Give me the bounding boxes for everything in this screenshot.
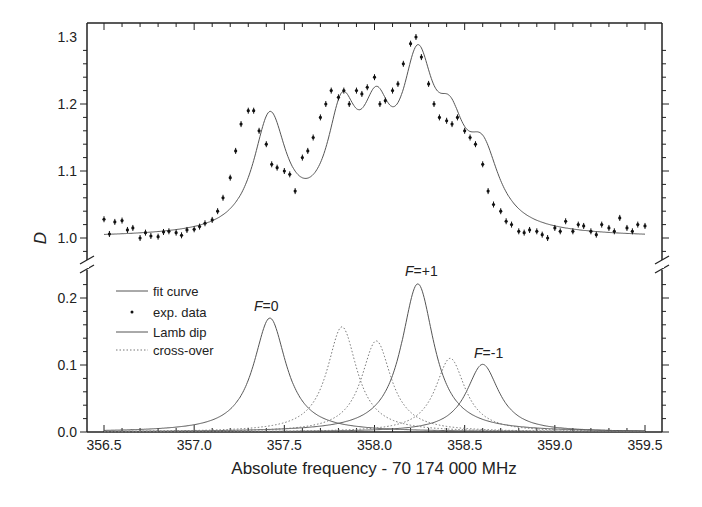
x-axis-title: Absolute frequency - 70 174 000 MHz — [231, 459, 516, 478]
exp-data-point — [337, 96, 340, 99]
exp-data-point — [126, 228, 129, 231]
annotation-F0-suffix: =0 — [263, 298, 279, 314]
exp-data-point — [270, 163, 273, 166]
exp-data-point — [120, 219, 123, 222]
y-tick-label: 0.2 — [58, 290, 78, 306]
exp-data-point — [180, 234, 183, 237]
x-tick-label: 359.0 — [537, 437, 572, 453]
exp-data-point — [234, 149, 237, 152]
cross-over-curve — [104, 358, 645, 432]
exp-data-point — [221, 196, 224, 199]
legend-exp-label: exp. data — [153, 305, 207, 320]
exp-data-point — [595, 233, 598, 236]
exp-data-point — [185, 228, 188, 231]
exp-data-point — [636, 223, 639, 226]
chart-figure: 356.5357.0357.5358.0358.5359.0359.51.01.… — [0, 0, 702, 507]
exp-data-point — [157, 235, 160, 238]
x-tick-label: 356.5 — [86, 437, 121, 453]
exp-data-point — [505, 220, 508, 223]
exp-data-point — [643, 224, 646, 227]
exp-data-point — [427, 82, 430, 85]
exp-data-point — [294, 190, 297, 193]
exp-data-point — [306, 149, 309, 152]
exp-data-point — [481, 163, 484, 166]
exp-data-point — [324, 102, 327, 105]
exp-data-point — [203, 222, 206, 225]
exp-data-point — [528, 228, 531, 231]
exp-data-point — [360, 92, 363, 95]
legend-lamb-label: Lamb dip — [153, 325, 206, 340]
exp-data-point — [288, 173, 291, 176]
exp-data-point — [571, 230, 574, 233]
exp-data-point — [450, 123, 453, 126]
exp-data-point — [409, 42, 412, 45]
x-tick-label: 357.0 — [177, 437, 212, 453]
exp-data-point — [577, 223, 580, 226]
exp-data-point — [162, 230, 165, 233]
exp-data-point — [625, 226, 628, 229]
exp-data-point — [366, 86, 369, 89]
exp-data-point — [541, 233, 544, 236]
exp-data-point — [193, 228, 196, 231]
x-tick-label: 357.5 — [267, 437, 302, 453]
legend-exp-point — [131, 311, 134, 314]
exp-data-point — [312, 136, 315, 139]
exp-data-point — [131, 226, 134, 229]
exp-data-point — [348, 102, 351, 105]
exp-data-point — [499, 210, 502, 213]
exp-data-point — [252, 109, 255, 112]
exp-data-point — [167, 230, 170, 233]
x-tick-label: 359.5 — [627, 437, 662, 453]
exp-data-point — [420, 56, 423, 59]
axis-break-gap — [661, 262, 664, 268]
exp-data-point — [102, 218, 105, 221]
exp-data-point — [144, 231, 147, 234]
y-tick-label: 0.1 — [58, 357, 78, 373]
exp-data-point — [198, 225, 201, 228]
exp-data-point — [276, 166, 279, 169]
x-tick-label: 358.5 — [447, 437, 482, 453]
y-tick-label: 1.3 — [58, 29, 78, 45]
exp-data-point — [247, 109, 250, 112]
exp-data-point — [319, 116, 322, 119]
exp-data-point — [463, 129, 466, 132]
exp-data-point — [113, 220, 116, 223]
y-tick-label: 1.2 — [58, 96, 78, 112]
exp-data-point — [468, 136, 471, 139]
legend: fit curve exp. data Lamb dip cross-over — [116, 284, 214, 358]
annotation-Fm1-suffix: =-1 — [483, 345, 504, 361]
exp-data-point — [301, 156, 304, 159]
axis-break-gap — [86, 262, 89, 268]
exp-data-point — [175, 231, 178, 234]
exp-data-point — [414, 35, 417, 38]
exp-data-point — [487, 190, 490, 193]
exp-data-point — [149, 234, 152, 237]
exp-data-point — [553, 226, 556, 229]
exp-data-point — [456, 116, 459, 119]
exp-data-point — [330, 89, 333, 92]
annotation-F0: F=0 — [254, 298, 279, 314]
x-tick-label: 358.0 — [357, 437, 392, 453]
plot-frame — [80, 23, 669, 432]
exp-data-point — [108, 232, 111, 235]
exp-data-point — [445, 119, 448, 122]
annotation-Fm1: F=-1 — [474, 345, 503, 361]
annotation-Fp1: F=+1 — [405, 263, 438, 279]
data-points — [102, 34, 646, 241]
exp-data-point — [600, 223, 603, 226]
lamb-dip-curve — [104, 364, 645, 432]
exp-data-point — [582, 224, 585, 227]
exp-data-point — [432, 102, 435, 105]
exp-data-point — [239, 123, 242, 126]
exp-data-point — [546, 236, 549, 239]
exp-data-point — [355, 89, 358, 92]
exp-data-point — [607, 226, 610, 229]
exp-data-point — [283, 169, 286, 172]
exp-data-point — [523, 231, 526, 234]
y-tick-label: 0.0 — [58, 424, 78, 440]
exp-data-point — [138, 236, 141, 239]
exp-data-point — [474, 143, 477, 146]
exp-data-point — [613, 230, 616, 233]
exp-data-point — [211, 218, 214, 221]
exp-data-point — [378, 102, 381, 105]
